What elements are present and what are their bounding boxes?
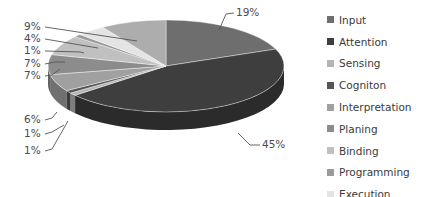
legend-item-execution: Execution [327,183,412,197]
legend-swatch [327,38,334,45]
legend-label: Planing [339,123,378,135]
legend-item-sensing: Sensing [327,53,412,75]
label-execution: 4% [24,32,41,44]
pie-side-cogniton [66,91,70,111]
pie-slices [48,20,284,112]
legend-swatch [327,16,334,23]
legend-swatch [327,104,334,111]
legend-swatch [327,82,334,89]
label-action: 9% [24,20,41,32]
legend-item-binding: Binding [327,140,412,162]
legend-swatch [327,191,334,197]
label-programming: 1% [24,44,41,56]
legend-label: Sensing [339,57,381,69]
label-cogniton: 1% [24,127,41,139]
legend-label: Interpretation [339,101,412,113]
label-binding: 7% [24,57,41,69]
legend-label: Programming [339,166,410,178]
legend-label: Cogniton [339,79,386,91]
legend-label: Input [339,14,366,26]
label-attention: 45% [262,138,285,150]
label-input: 19% [236,6,259,18]
pie-side-sensing [71,93,76,113]
legend-item-input: Input [327,9,412,31]
label-interpretation: 6% [24,113,41,125]
chart-legend: Input Attention Sensing Cogniton Interpr… [327,9,412,197]
legend-item-attention: Attention [327,31,412,53]
legend-item-cogniton: Cogniton [327,74,412,96]
label-planing: 7% [24,69,41,81]
label-sensing: 1% [24,144,41,156]
leader-line [45,121,68,151]
legend-swatch [327,60,334,67]
legend-label: Execution [339,188,391,197]
legend-item-interpretation: Interpretation [327,96,412,118]
legend-label: Attention [339,36,387,48]
legend-swatch [327,147,334,154]
legend-item-planing: Planing [327,118,412,140]
legend-swatch [327,125,334,132]
leader-line [238,133,260,145]
legend-item-programming: Programming [327,162,412,184]
legend-label: Binding [339,145,379,157]
legend-swatch [327,169,334,176]
leader-line [45,112,57,120]
